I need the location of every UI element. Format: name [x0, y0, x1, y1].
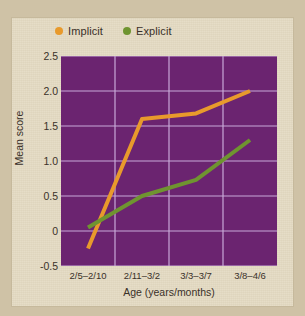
- chart-svg: [61, 56, 277, 266]
- legend-dot-explicit: [123, 27, 131, 35]
- legend-item-explicit: Explicit: [123, 25, 172, 37]
- legend-label-explicit: Explicit: [136, 25, 172, 37]
- plot-area-wrapper: [61, 56, 277, 266]
- y-tick-label: 0.5: [16, 190, 58, 202]
- x-tick-label: 2/5–2/10: [70, 270, 107, 281]
- y-axis-title: Mean score: [13, 93, 25, 183]
- chart-legend: Implicit Explicit: [55, 25, 172, 37]
- legend-label-implicit: Implicit: [68, 25, 103, 37]
- y-tick-label: 0: [16, 225, 58, 237]
- x-axis-title: Age (years/months): [61, 286, 277, 298]
- scanned-page-background: Implicit Explicit 2.52.01.51.00.50-0.5 M…: [0, 0, 305, 316]
- x-axis-tick-labels: 2/5–2/102/11–3/23/3–3/73/8–4/6: [61, 270, 277, 284]
- x-tick-label: 2/11–3/2: [124, 270, 160, 281]
- y-tick-label: 2.5: [16, 50, 58, 62]
- legend-item-implicit: Implicit: [55, 25, 103, 37]
- x-tick-label: 3/8–4/6: [234, 270, 266, 281]
- y-tick-label: -0.5: [16, 260, 58, 272]
- x-tick-label: 3/3–3/7: [180, 270, 212, 281]
- legend-dot-implicit: [55, 27, 63, 35]
